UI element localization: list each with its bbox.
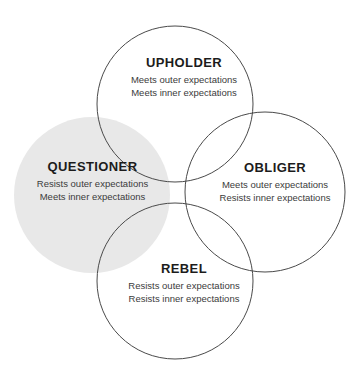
quadrant-upholder-outer-expectation: Meets outer expectations <box>6 74 362 87</box>
quadrant-upholder: UPHOLDER Meets outer expectations Meets … <box>0 56 362 99</box>
quadrant-rebel-title: REBEL <box>6 262 362 275</box>
four-tendencies-venn-diagram: UPHOLDER Meets outer expectations Meets … <box>0 0 362 384</box>
quadrant-rebel-outer-expectation: Resists outer expectations <box>6 280 362 293</box>
quadrant-questioner-inner-expectation: Meets inner expectations <box>0 191 185 204</box>
quadrant-upholder-title: UPHOLDER <box>6 56 362 69</box>
quadrant-questioner-title: QUESTIONER <box>0 160 185 173</box>
quadrant-obliger-title: OBLIGER <box>205 161 345 174</box>
quadrant-upholder-inner-expectation: Meets inner expectations <box>6 87 362 100</box>
quadrant-obliger-outer-expectation: Meets outer expectations <box>205 179 345 192</box>
quadrant-obliger-inner-expectation: Resists inner expectations <box>205 192 345 205</box>
quadrant-questioner: QUESTIONER Resists outer expectations Me… <box>0 160 185 203</box>
quadrant-rebel: REBEL Resists outer expectations Resists… <box>0 262 362 305</box>
quadrant-questioner-outer-expectation: Resists outer expectations <box>0 178 185 191</box>
quadrant-obliger: OBLIGER Meets outer expectations Resists… <box>205 161 345 204</box>
quadrant-rebel-inner-expectation: Resists inner expectations <box>6 293 362 306</box>
